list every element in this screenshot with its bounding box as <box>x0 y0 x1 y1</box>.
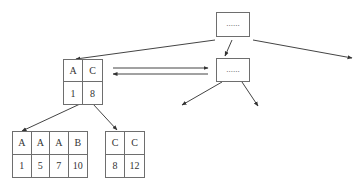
key-cell: C <box>83 60 102 82</box>
value-cell: 8 <box>83 82 102 104</box>
value-cell: 7 <box>50 155 69 178</box>
root-node-label: ...... <box>226 18 240 28</box>
key-cell: C <box>106 132 125 155</box>
internal-right-node-label: ...... <box>226 64 240 74</box>
key-cell: A <box>32 132 51 155</box>
leaf-left-node: A A A B 1 5 7 10 <box>12 131 88 178</box>
edge-internal-left-to-leaf-right <box>93 104 117 130</box>
edge-internal-left-to-leaf-left <box>22 104 80 131</box>
key-cell: B <box>69 132 88 155</box>
edge-root-to-internal-right <box>225 40 232 56</box>
edge-root-to-right <box>253 40 352 58</box>
value-cell: 8 <box>106 155 125 178</box>
internal-left-node: A C 1 8 <box>63 59 103 105</box>
edge-internal-right-child-1 <box>182 82 222 105</box>
edge-root-to-internal-left <box>76 40 215 59</box>
edge-internal-right-child-2 <box>242 82 258 106</box>
leaf-right-node: C C 8 12 <box>105 131 145 178</box>
value-cell: 5 <box>32 155 51 178</box>
value-cell: 1 <box>13 155 32 178</box>
internal-right-node: ...... <box>216 58 250 82</box>
value-cell: 1 <box>64 82 83 104</box>
key-cell: A <box>13 132 32 155</box>
root-node: ...... <box>216 12 250 37</box>
value-cell: 10 <box>69 155 88 178</box>
value-cell: 12 <box>125 155 144 178</box>
key-cell: A <box>64 60 83 82</box>
key-cell: A <box>50 132 69 155</box>
key-cell: C <box>125 132 144 155</box>
